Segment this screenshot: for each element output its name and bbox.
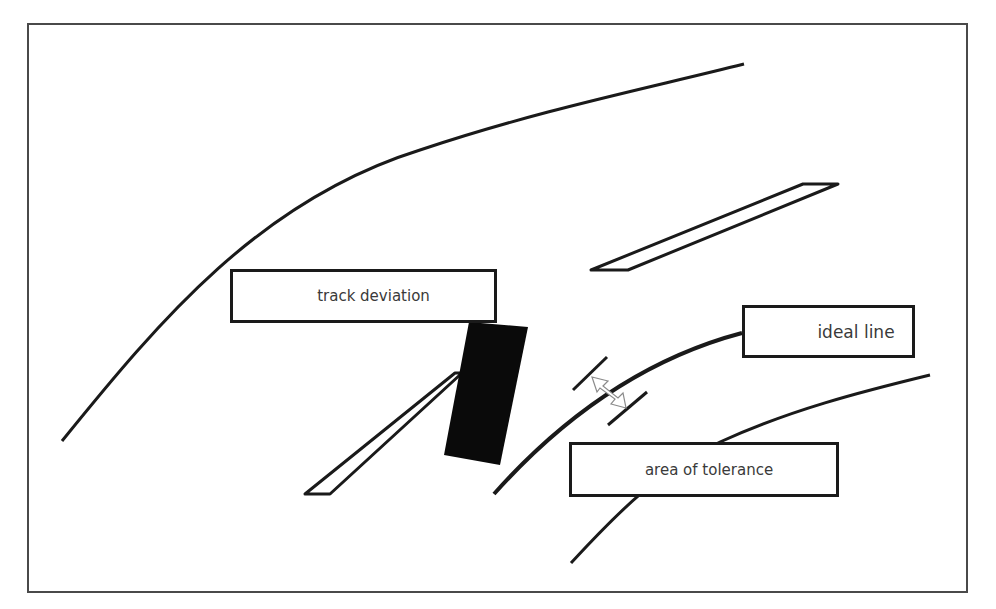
upper-kerb bbox=[591, 184, 838, 270]
track-deviation-text: track deviation bbox=[317, 287, 430, 305]
area-of-tolerance-label: area of tolerance bbox=[569, 442, 839, 497]
ideal-line-text: ideal line bbox=[817, 322, 894, 342]
area-of-tolerance-text: area of tolerance bbox=[645, 461, 773, 479]
vehicle-icon bbox=[444, 322, 528, 465]
ideal-line-label: ideal line bbox=[742, 305, 915, 358]
lower-kerb bbox=[305, 373, 462, 494]
track-deviation-label: track deviation bbox=[230, 269, 497, 323]
